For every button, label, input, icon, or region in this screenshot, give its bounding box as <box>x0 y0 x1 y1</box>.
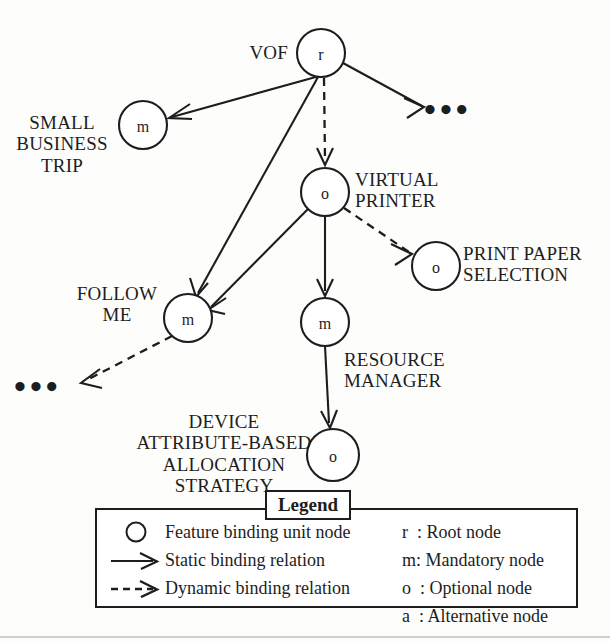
label-device-attribute-strategy: DEVICE ATTRIBUTE-BASED ALLOCATION STRATE… <box>134 411 314 496</box>
label-virtual-printer: VIRTUAL PRINTER <box>355 169 495 212</box>
label-vof: VOF <box>198 42 288 63</box>
edge-virtual-printer-to-follow-me <box>208 209 308 314</box>
node-resource-manager[interactable]: m <box>301 298 349 346</box>
label-small-business-trip: SMALL BUSINESS TRIP <box>8 112 116 176</box>
legend-key-alternative: a : Alternative node <box>402 602 577 630</box>
legend-key-mandatory: m: Mandatory node <box>402 546 577 574</box>
legend-key-root: r : Root node <box>402 518 577 546</box>
node-letter-root: r <box>318 46 324 63</box>
node-device-attribute-strategy[interactable]: o <box>307 429 359 481</box>
edge-virtual-printer-to-resource-manager <box>317 216 333 296</box>
dashed-arrow-icon <box>107 578 165 598</box>
legend-label-node: Feature binding unit node <box>165 522 350 543</box>
label-print-paper-selection: PRINT PAPER SELECTION <box>463 243 605 286</box>
edge-virtual-printer-to-print-paper <box>344 208 412 265</box>
node-letter-follow-me: m <box>182 311 195 328</box>
legend-box: Feature binding unit node Static binding… <box>95 508 578 608</box>
legend-circle-icon <box>107 519 165 545</box>
ellipsis-top-right: ••• <box>424 93 472 127</box>
page-bottom-rule <box>0 636 610 638</box>
node-letter-print-paper: o <box>432 259 440 276</box>
edge-root-to-ellipsis-right <box>343 63 424 118</box>
legend-row-node: Feature binding unit node <box>107 518 397 546</box>
node-letter-device-attribute: o <box>329 448 337 465</box>
edge-root-to-small-business-trip <box>169 75 323 119</box>
legend-row-dynamic: Dynamic binding relation <box>107 574 397 602</box>
edge-follow-me-to-ellipsis-left <box>81 336 172 388</box>
node-small-business-trip[interactable]: m <box>119 101 167 149</box>
solid-arrow-icon <box>107 550 165 570</box>
node-vof-root[interactable]: r <box>297 29 345 77</box>
legend-title: Legend <box>265 490 351 520</box>
legend-label-static: Static binding relation <box>165 550 325 571</box>
legend-key-optional: o : Optional node <box>402 574 577 602</box>
node-print-paper-selection[interactable]: o <box>412 242 460 290</box>
node-virtual-printer[interactable]: o <box>301 168 349 216</box>
node-letter-virtual-printer: o <box>321 185 329 202</box>
label-resource-manager: RESOURCE MANAGER <box>344 349 494 392</box>
edge-resource-manager-to-device-attribute <box>321 346 337 428</box>
legend-row-static: Static binding relation <box>107 546 397 574</box>
ellipsis-bottom-left: ••• <box>14 370 62 404</box>
label-follow-me: FOLLOW ME <box>62 283 172 326</box>
legend-key-column: r : Root node m: Mandatory node o : Opti… <box>402 518 577 630</box>
node-letter-small-business-trip: m <box>137 118 150 135</box>
node-letter-resource-manager: m <box>319 315 332 332</box>
diagram-canvas: r m o o m m o VOF SMALL BUSINESS TRIP <box>0 0 610 642</box>
legend-label-dynamic: Dynamic binding relation <box>165 578 350 599</box>
edge-root-to-virtual-printer <box>317 78 333 165</box>
legend-symbol-column: Feature binding unit node Static binding… <box>107 518 397 602</box>
